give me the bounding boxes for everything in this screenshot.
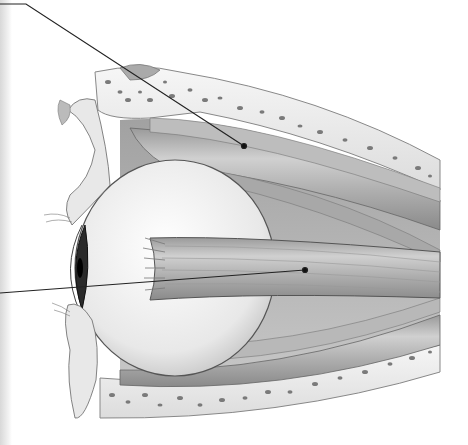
- eye-orbit-illustration: [0, 0, 468, 445]
- leader-point-upper: [242, 144, 247, 149]
- lower-eyelid: [52, 303, 97, 418]
- leader-point-lower: [303, 268, 308, 273]
